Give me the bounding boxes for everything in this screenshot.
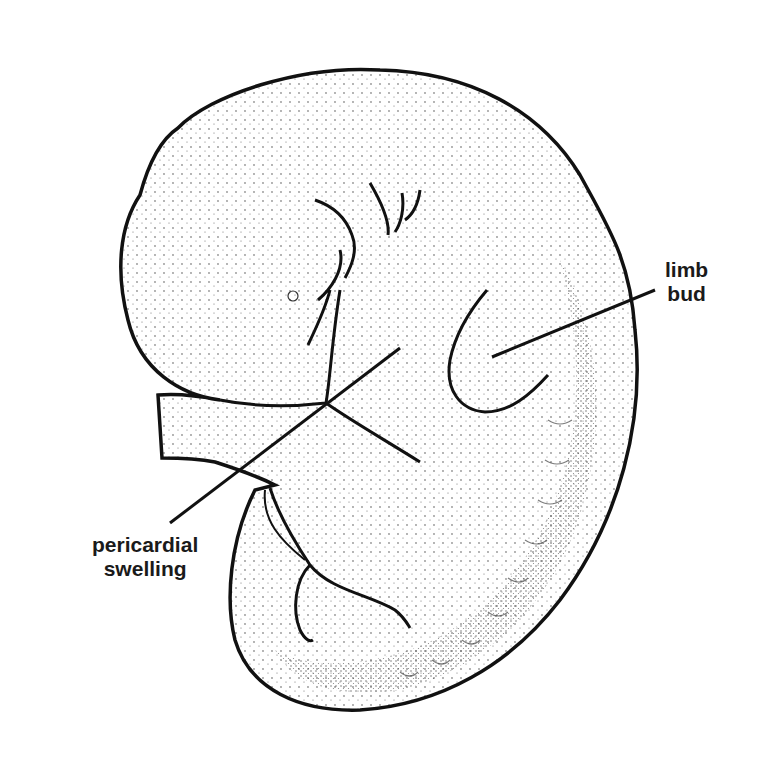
limb-bud-label: limb bud (665, 258, 708, 306)
limb-bud-label-line2: bud (665, 282, 708, 306)
embryo-diagram: limb bud pericardial swelling (0, 0, 778, 768)
embryo-outline (121, 69, 637, 710)
pericardial-label-line1: pericardial (92, 533, 198, 557)
pericardial-label-line2: swelling (92, 557, 198, 581)
embryo-illustration (0, 0, 778, 768)
limb-bud-label-line1: limb (665, 258, 708, 282)
pericardial-swelling-label: pericardial swelling (92, 533, 198, 581)
